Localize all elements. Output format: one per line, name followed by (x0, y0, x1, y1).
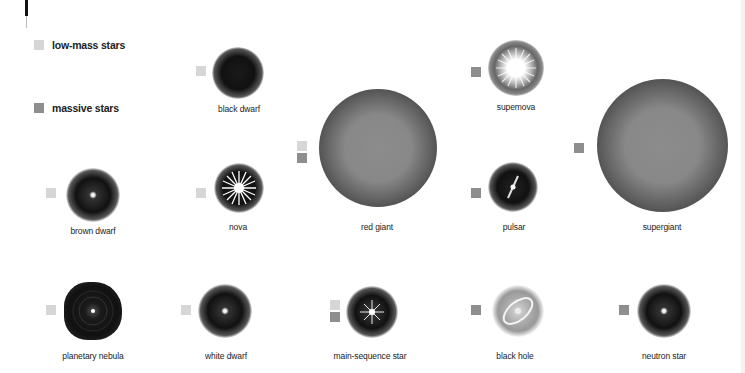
object-label: planetary nebula (62, 351, 123, 361)
planetary-nebula-icon (64, 282, 122, 340)
massive-marker (297, 153, 307, 163)
object-label: black dwarf (218, 104, 260, 114)
object-label: supemova (497, 102, 535, 112)
brown-dwarf-icon (66, 168, 120, 222)
massive-marker (471, 188, 481, 198)
low-mass-marker (196, 66, 206, 76)
object-label: white dwarf (205, 351, 247, 361)
nova-icon (214, 163, 264, 213)
massive-swatch (34, 103, 44, 113)
legend-item-massive: massive stars (34, 102, 119, 114)
massive-marker (574, 143, 584, 153)
object-label: nova (229, 222, 247, 232)
object-label: black hole (496, 351, 533, 361)
page-edge (741, 0, 745, 373)
legend-label: massive stars (52, 102, 119, 114)
supernova-icon (488, 40, 544, 96)
legend-item-low-mass: low-mass stars (34, 39, 125, 51)
low-mass-marker (196, 188, 206, 198)
low-mass-marker (181, 305, 191, 315)
low-mass-marker (46, 305, 56, 315)
header-rule-fade (26, 16, 27, 28)
object-label: supergiant (643, 222, 682, 232)
object-label: neutron star (642, 351, 686, 361)
low-mass-swatch (34, 40, 44, 50)
red-giant-icon (319, 89, 437, 207)
object-label: pulsar (503, 222, 526, 232)
black-dwarf-icon (212, 47, 264, 99)
pulsar-icon (488, 162, 538, 212)
low-mass-marker (297, 141, 307, 151)
low-mass-marker (330, 300, 340, 310)
main-sequence-star-icon (346, 286, 398, 338)
neutron-star-icon (637, 284, 691, 338)
black-hole-icon (492, 285, 544, 337)
white-dwarf-icon (198, 284, 252, 338)
supergiant-icon (597, 79, 728, 212)
object-label: brown dwarf (70, 226, 115, 236)
massive-marker (471, 305, 481, 315)
object-label: main-sequence star (334, 351, 407, 361)
header-rule (25, 0, 28, 16)
massive-marker (330, 312, 340, 322)
low-mass-marker (46, 188, 56, 198)
massive-marker (471, 67, 481, 77)
massive-marker (619, 305, 629, 315)
object-label: red giant (361, 222, 393, 232)
legend-label: low-mass stars (52, 39, 125, 51)
